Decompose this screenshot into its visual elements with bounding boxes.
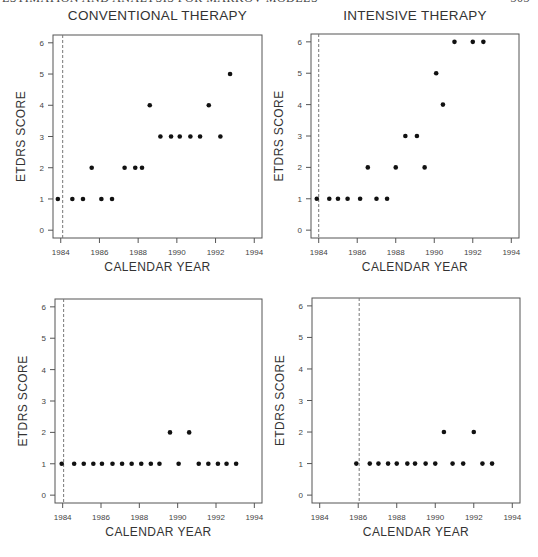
x-tick-label: 1994 [503,513,521,522]
x-tick-label: 1990 [426,513,444,522]
plot-frame [312,298,520,503]
y-tick-label: 1 [299,460,304,469]
x-tick-label: 1986 [349,513,367,522]
data-point [471,430,476,435]
data-point [386,461,391,466]
figure-caption-partial [20,552,530,557]
data-point [490,461,495,466]
x-tick-label: 1992 [465,513,483,522]
data-point [394,461,399,466]
data-point [405,461,410,466]
y-tick-label: 6 [299,302,304,311]
y-tick-label: 0 [299,491,304,500]
data-point [433,461,438,466]
data-point [354,461,359,466]
data-point [461,461,466,466]
x-tick-label: 1984 [311,513,329,522]
data-point [367,461,372,466]
scatter-plot: 0123456198419861988199019921994CALENDAR … [0,0,538,557]
y-axis-label: ETDRS SCORE [273,355,287,446]
data-point [442,430,447,435]
data-point [376,461,381,466]
data-point [450,461,455,466]
x-tick-label: 1988 [388,513,406,522]
y-tick-label: 5 [299,333,304,342]
y-tick-label: 3 [299,397,304,406]
x-axis-label: CALENDAR YEAR [363,525,469,539]
data-point [423,461,428,466]
y-tick-label: 2 [299,428,304,437]
y-tick-label: 4 [299,365,304,374]
data-point [480,461,485,466]
data-point [413,461,418,466]
